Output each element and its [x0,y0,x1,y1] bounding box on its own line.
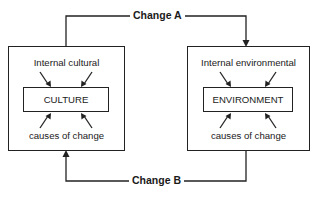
change-b-label: Change B [129,175,184,186]
arrow-up-icon [63,150,70,157]
environment-top-caption: Internal environmental [187,57,310,68]
culture-bottom-caption: causes of change [8,130,125,141]
culture-top-caption: Internal cultural [8,57,125,68]
environment-bottom-caption: causes of change [187,130,310,141]
environment-inner-label: ENVIRONMENT [203,94,293,105]
change-a-label: Change A [130,10,185,21]
culture-inner-label: CULTURE [23,94,109,105]
